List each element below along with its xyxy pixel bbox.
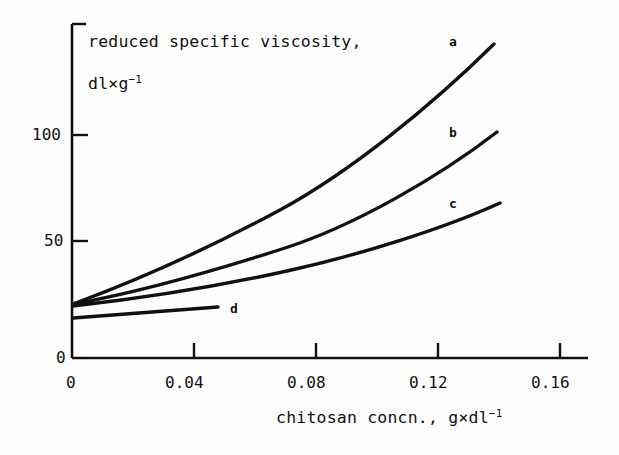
x-axis-ticks xyxy=(194,343,560,358)
x-axis-title-base: chitosan concn., g×dl xyxy=(276,408,489,427)
viscosity-chart-figure: reduced specific viscosity, dl×g−1 chito… xyxy=(0,0,619,455)
x-tick-label-012: 0.12 xyxy=(409,375,448,391)
x-tick-label-008: 0.08 xyxy=(287,375,326,391)
y-axis-title-unit-base: dl×g xyxy=(88,74,129,93)
y-axis-title-line1: reduced specific viscosity, xyxy=(88,34,362,51)
y-tick-label-50: 50 xyxy=(44,233,63,249)
x-tick-label-016: 0.16 xyxy=(531,375,570,391)
x-tick-label-0: 0 xyxy=(66,375,76,391)
curve-label-c: c xyxy=(449,197,457,210)
x-axis-title-exponent: −1 xyxy=(489,407,503,420)
x-tick-label-004: 0.04 xyxy=(165,375,204,391)
y-tick-label-100: 100 xyxy=(32,127,61,143)
curve-d xyxy=(73,307,218,318)
y-axis-title-unit-exponent: −1 xyxy=(129,73,143,86)
y-axis-title-line2: dl×g−1 xyxy=(88,76,142,93)
y-tick-label-0: 0 xyxy=(56,350,66,366)
curve-label-a: a xyxy=(449,35,457,48)
y-axis-ticks xyxy=(72,24,88,241)
curve-label-b: b xyxy=(449,126,457,139)
curve-label-d: d xyxy=(230,302,238,315)
x-axis-title: chitosan concn., g×dl−1 xyxy=(276,410,502,427)
axis-lines xyxy=(72,24,588,358)
